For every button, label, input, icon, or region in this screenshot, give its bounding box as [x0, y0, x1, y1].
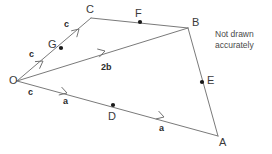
diagram-canvas	[0, 0, 272, 154]
segment-O-to-C	[17, 18, 91, 81]
point-dot-D	[111, 103, 115, 107]
segment-O-to-B	[17, 28, 188, 81]
point-dot-E	[200, 80, 204, 84]
segments-group	[17, 18, 218, 136]
arrow-markers-group	[35, 26, 165, 121]
point-dot-G	[59, 46, 63, 50]
not-drawn-accurately-note: Not drawnaccurately	[215, 29, 254, 50]
segment-O-to-A	[17, 81, 218, 136]
arrow-OG-c	[35, 58, 45, 69]
note-line-1: Not drawn	[215, 29, 254, 39]
point-dot-F	[138, 20, 142, 24]
note-line-2: accurately	[215, 40, 254, 50]
arrow-OD-a	[59, 87, 68, 97]
point-dots-group	[59, 20, 204, 107]
vector-diagram: OGCFBEAD ccc2baa Not drawnaccurately	[0, 0, 272, 154]
